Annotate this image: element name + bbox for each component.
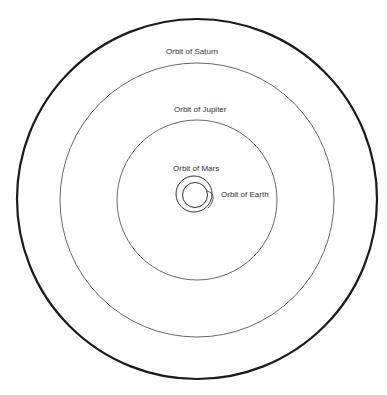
orbit-diagram bbox=[0, 0, 387, 395]
mars-orbit-label: Orbit of Mars bbox=[173, 164, 219, 173]
jupiter-orbit-label: Orbit of Jupiter bbox=[174, 105, 226, 114]
earth-orbit-label: Orbit of Earth bbox=[221, 190, 269, 199]
outer-boundary-circle bbox=[17, 19, 377, 379]
mars-orbit bbox=[176, 176, 212, 212]
jupiter-orbit bbox=[117, 120, 277, 280]
earth-orbit bbox=[183, 183, 208, 208]
saturn-orbit-label: Orbit of Saturn bbox=[166, 47, 218, 56]
